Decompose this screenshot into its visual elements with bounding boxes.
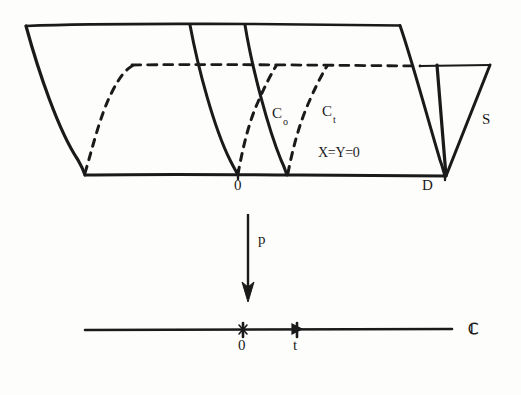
- surface-group: [26, 24, 490, 180]
- base-point-label-zero: 0: [234, 178, 242, 193]
- surface-bottom-edge: [85, 174, 445, 176]
- projection-map-label: p: [258, 232, 266, 247]
- complex-plane-label: ℂ: [468, 322, 478, 337]
- line-point-label-zero: 0: [238, 338, 246, 353]
- vanishing-equation-label: X=Y=0: [318, 146, 360, 160]
- figure-container: Co Ct X=Y=0 0 D S p 0 t ℂ: [0, 0, 521, 395]
- fiber-label-ct: Ct: [322, 104, 335, 122]
- fiber-label-co-base: C: [272, 105, 282, 121]
- fiber-curve-t: [245, 25, 287, 175]
- fiber-label-ct-subscript: t: [333, 114, 336, 125]
- surface-top-edge: [26, 24, 400, 26]
- fiber-label-co: Co: [272, 106, 287, 124]
- fiber-curve-left: [26, 26, 85, 175]
- surface-label-s: S: [482, 112, 490, 127]
- vanishing-level-solid: [420, 65, 490, 66]
- base-point-label-d: D: [422, 178, 433, 193]
- line-point-label-t: t: [293, 338, 297, 353]
- complex-line-axis: [85, 329, 452, 330]
- projection-arrow-group: [242, 214, 254, 302]
- fiber-label-ct-base: C: [322, 103, 332, 119]
- diagram-canvas: [0, 0, 521, 395]
- fiber-curve-right: [400, 26, 445, 177]
- vanishing-arc-left: [85, 65, 134, 173]
- fiber-curve-zero: [190, 25, 238, 175]
- complex-line-group: [85, 323, 452, 337]
- fiber-label-co-subscript: o: [283, 116, 288, 127]
